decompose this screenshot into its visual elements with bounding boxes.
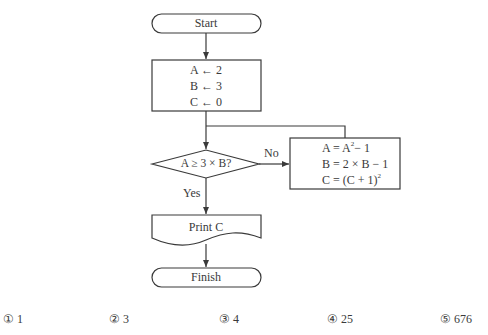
decision-label: A ≥ 3 × B? bbox=[181, 157, 232, 169]
answer-choices: ① 1 ② 3 ③ 4 ④ 25 ⑤ 676 bbox=[0, 312, 488, 330]
no-branch-label: No bbox=[264, 146, 279, 161]
init-line-c: C ← 0 bbox=[190, 94, 222, 110]
update-assignments: A = A2− 1 B = 2 × B − 1 C = (C + 1)2 bbox=[322, 140, 388, 188]
init-line-b: B ← 3 bbox=[190, 78, 222, 94]
answer-choice-3[interactable]: ③ 4 bbox=[219, 312, 239, 327]
init-line-a: A ← 2 bbox=[190, 62, 222, 78]
answer-choice-5[interactable]: ⑤ 676 bbox=[440, 312, 472, 327]
print-label: Print C bbox=[189, 220, 223, 235]
start-label: Start bbox=[195, 16, 218, 31]
update-line-c: C = (C + 1)2 bbox=[322, 172, 388, 188]
loop-back-line bbox=[206, 126, 345, 138]
answer-choice-2[interactable]: ② 3 bbox=[109, 312, 129, 327]
finish-label: Finish bbox=[191, 270, 221, 285]
init-assignments: A ← 2 B ← 3 C ← 0 bbox=[190, 62, 222, 110]
answer-choice-4[interactable]: ④ 25 bbox=[327, 312, 353, 327]
update-line-b: B = 2 × B − 1 bbox=[322, 156, 388, 172]
update-line-a: A = A2− 1 bbox=[322, 140, 388, 156]
flowchart-canvas bbox=[0, 0, 488, 335]
yes-branch-label: Yes bbox=[183, 186, 200, 201]
answer-choice-1[interactable]: ① 1 bbox=[3, 312, 23, 327]
